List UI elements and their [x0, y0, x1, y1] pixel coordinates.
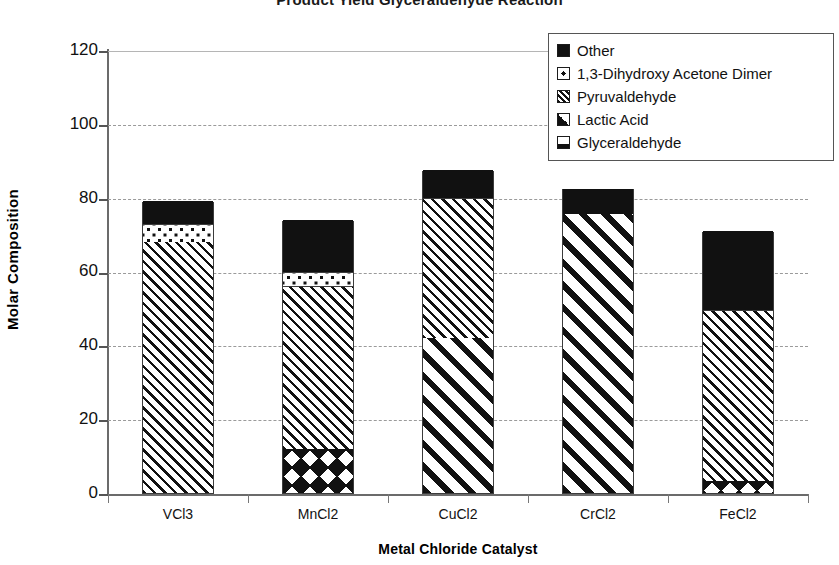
stacked-bar-crcl2[interactable] [562, 189, 634, 494]
segment-other[interactable] [703, 231, 773, 310]
legend-item-other[interactable]: Other [557, 39, 825, 62]
y-tick-label-40: 40 [34, 335, 98, 355]
segment-lactic-acid[interactable] [423, 338, 493, 493]
chart-legend: Other 1,3-Dihydroxy Acetone Dimer Pyruva… [548, 33, 834, 161]
y-tick-80 [99, 199, 108, 201]
x-tick-0 [108, 494, 109, 503]
fine-diagonal-swatch-icon [557, 90, 570, 103]
y-tick-0 [99, 494, 108, 496]
x-tick-3 [528, 494, 529, 503]
segment-other[interactable] [143, 201, 213, 223]
stacked-bar-vcl3[interactable] [142, 202, 214, 494]
segment-other[interactable] [283, 220, 353, 272]
y-tick-label-20: 20 [34, 409, 98, 429]
x-category-label-crcl2: CrCl2 [528, 506, 668, 522]
dotted-swatch-icon [557, 67, 570, 80]
x-axis-line [107, 494, 809, 496]
y-tick-label-0: 0 [34, 483, 98, 503]
legend-item-lactic-acid[interactable]: Lactic Acid [557, 108, 825, 131]
x-category-label-vcl3: VCl3 [108, 506, 248, 522]
legend-label-other: Other [577, 43, 615, 58]
x-tick-4 [668, 494, 669, 503]
y-tick-120 [99, 51, 108, 53]
legend-item-dimer[interactable]: 1,3-Dihydroxy Acetone Dimer [557, 62, 825, 85]
legend-item-pyruvaldehyde[interactable]: Pyruvaldehyde [557, 85, 825, 108]
legend-label-dimer: 1,3-Dihydroxy Acetone Dimer [577, 66, 772, 81]
segment-other[interactable] [563, 189, 633, 215]
segment-pyruvaldehyde[interactable] [563, 214, 633, 493]
segment-pyruvaldehyde[interactable] [283, 286, 353, 448]
bottom-filled-swatch-icon [557, 136, 570, 149]
y-axis-title-container: Molar Composition [18, 180, 19, 181]
y-tick-60 [99, 273, 108, 275]
y-tick-label-80: 80 [34, 188, 98, 208]
segment-dimer[interactable] [283, 272, 353, 287]
stacked-bar-fecl2[interactable] [702, 232, 774, 494]
stacked-bar-mncl2[interactable] [282, 221, 354, 494]
legend-label-glyceraldehyde: Glyceraldehyde [577, 135, 681, 150]
x-category-label-cucl2: CuCl2 [388, 506, 528, 522]
legend-label-pyruvaldehyde: Pyruvaldehyde [577, 89, 676, 104]
solid-black-swatch-icon [557, 44, 570, 57]
y-tick-40 [99, 346, 108, 348]
y-tick-100 [99, 125, 108, 127]
legend-item-glyceraldehyde[interactable]: Glyceraldehyde [557, 131, 825, 154]
segment-pyruvaldehyde[interactable] [143, 242, 213, 493]
segment-glyceraldehyde[interactable] [283, 449, 353, 493]
segment-pyruvaldehyde[interactable] [423, 198, 493, 338]
y-tick-label-100: 100 [34, 114, 98, 134]
x-axis-title: Metal Chloride Catalyst [108, 541, 808, 557]
y-axis-title: Molar Composition [4, 130, 21, 330]
x-category-label-fecl2: FeCl2 [668, 506, 808, 522]
half-diagonal-swatch-icon [557, 113, 570, 126]
x-tick-1 [248, 494, 249, 503]
legend-label-lactic-acid: Lactic Acid [577, 112, 649, 127]
x-tick-2 [388, 494, 389, 503]
x-tick-5 [808, 494, 809, 503]
chart-page: { "chart_data": { "type": "bar", "subtyp… [0, 0, 839, 565]
segment-pyruvaldehyde[interactable] [703, 310, 773, 481]
segment-glyceraldehyde[interactable] [703, 481, 773, 493]
segment-other[interactable] [423, 170, 493, 198]
chart-title: Product Yield Glyceraldehyde Reaction [0, 0, 839, 8]
y-tick-label-60: 60 [34, 261, 98, 281]
stacked-bar-cucl2[interactable] [422, 171, 494, 494]
y-tick-label-120: 120 [34, 40, 98, 60]
x-category-label-mncl2: MnCl2 [248, 506, 388, 522]
segment-dimer[interactable] [143, 224, 213, 243]
y-tick-20 [99, 420, 108, 422]
